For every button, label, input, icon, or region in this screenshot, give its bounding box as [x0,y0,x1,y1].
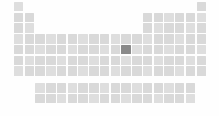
element-cell[interactable] [143,66,152,75]
element-cell[interactable] [100,66,109,75]
element-cell[interactable] [175,45,184,54]
element-cell[interactable] [35,94,44,103]
element-cell[interactable] [46,56,55,65]
element-cell[interactable] [175,66,184,75]
element-cell[interactable] [121,83,130,92]
element-cell[interactable] [154,56,163,65]
element-cell[interactable] [100,56,109,65]
element-cell[interactable] [111,94,120,103]
element-cell[interactable] [89,45,98,54]
periodic-table-minimap[interactable] [0,0,219,116]
element-cell[interactable] [164,13,173,22]
element-cell[interactable] [197,23,206,32]
element-cell[interactable] [100,94,109,103]
element-cell[interactable] [46,94,55,103]
element-cell[interactable] [68,45,77,54]
element-cell[interactable] [35,56,44,65]
element-cell[interactable] [111,83,120,92]
element-cell[interactable] [175,23,184,32]
element-cell[interactable] [35,83,44,92]
element-cell[interactable] [154,23,163,32]
element-cell[interactable] [154,34,163,43]
element-cell[interactable] [154,94,163,103]
element-cell[interactable] [132,94,141,103]
element-cell[interactable] [57,94,66,103]
element-cell[interactable] [164,34,173,43]
element-cell[interactable] [89,83,98,92]
element-cell[interactable] [25,23,34,32]
element-cell[interactable] [68,66,77,75]
element-cell[interactable] [78,45,87,54]
element-cell[interactable] [14,45,23,54]
element-cell[interactable] [100,45,109,54]
element-cell[interactable] [78,56,87,65]
element-cell[interactable] [132,45,141,54]
element-cell[interactable] [14,2,23,11]
element-cell[interactable] [164,83,173,92]
element-cell[interactable] [175,56,184,65]
element-cell[interactable] [111,56,120,65]
element-cell[interactable] [143,13,152,22]
element-cell[interactable] [35,66,44,75]
element-cell[interactable] [78,83,87,92]
element-cell[interactable] [46,83,55,92]
element-cell[interactable] [14,23,23,32]
element-cell[interactable] [164,23,173,32]
element-cell[interactable] [78,94,87,103]
element-cell[interactable] [111,34,120,43]
element-cell[interactable] [132,66,141,75]
element-cell[interactable] [164,45,173,54]
element-cell[interactable] [197,56,206,65]
element-cell[interactable] [57,45,66,54]
element-cell[interactable] [46,66,55,75]
element-cell[interactable] [186,34,195,43]
element-cell[interactable] [25,56,34,65]
element-cell[interactable] [154,45,163,54]
element-cell[interactable] [143,34,152,43]
element-cell[interactable] [132,34,141,43]
element-cell[interactable] [100,83,109,92]
element-cell[interactable] [78,66,87,75]
element-cell[interactable] [100,34,109,43]
element-cell[interactable] [89,94,98,103]
element-cell[interactable] [175,13,184,22]
element-cell[interactable] [14,34,23,43]
element-cell[interactable] [68,94,77,103]
element-cell[interactable] [164,56,173,65]
element-cell[interactable] [186,94,195,103]
element-cell[interactable] [46,45,55,54]
element-cell[interactable] [186,45,195,54]
element-cell[interactable] [25,45,34,54]
element-cell[interactable] [25,34,34,43]
element-cell[interactable] [164,94,173,103]
element-cell[interactable] [89,34,98,43]
element-cell[interactable] [121,94,130,103]
element-cell[interactable] [121,66,130,75]
element-cell[interactable] [132,83,141,92]
element-cell[interactable] [35,34,44,43]
element-cell[interactable] [57,34,66,43]
element-cell[interactable] [197,66,206,75]
element-cell[interactable] [197,34,206,43]
element-cell[interactable] [57,56,66,65]
element-cell[interactable] [46,34,55,43]
element-cell[interactable] [143,83,152,92]
element-cell[interactable] [143,56,152,65]
element-cell[interactable] [68,56,77,65]
element-cell[interactable] [68,34,77,43]
element-cell[interactable] [14,56,23,65]
element-cell[interactable] [154,13,163,22]
element-cell[interactable] [186,56,195,65]
element-cell[interactable] [57,83,66,92]
element-cell[interactable] [175,83,184,92]
element-cell[interactable] [89,66,98,75]
element-cell[interactable] [78,34,87,43]
element-cell[interactable] [197,2,206,11]
element-cell[interactable] [25,13,34,22]
element-cell[interactable] [89,56,98,65]
element-cell[interactable] [186,13,195,22]
element-cell[interactable] [186,66,195,75]
element-cell[interactable] [175,94,184,103]
element-cell[interactable] [111,66,120,75]
element-cell[interactable] [121,34,130,43]
